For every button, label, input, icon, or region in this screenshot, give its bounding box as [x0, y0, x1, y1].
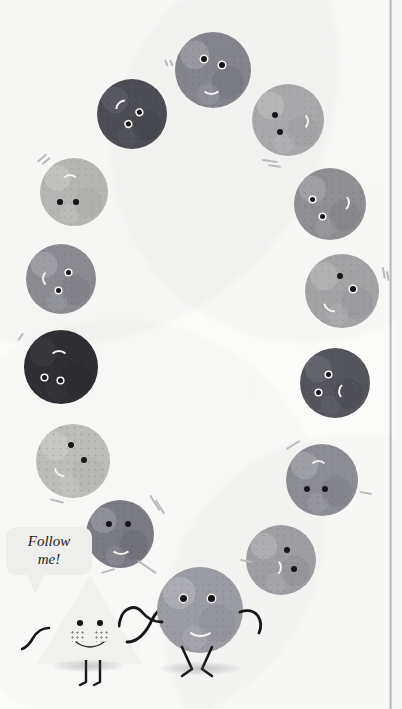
- mouth: [290, 112, 309, 131]
- pebble-face: [300, 348, 370, 418]
- pebble-face: [26, 244, 96, 314]
- motion-tick: [360, 491, 372, 495]
- follower-mouth: [186, 615, 215, 637]
- mouth: [337, 381, 358, 402]
- mouth: [49, 350, 69, 369]
- motion-tick: [164, 59, 168, 66]
- pebble-face: [85, 67, 178, 160]
- motion-tick: [169, 59, 173, 66]
- eye-right: [291, 566, 297, 572]
- eye-left: [310, 197, 315, 202]
- mouth: [42, 269, 61, 288]
- motion-tick: [262, 159, 278, 163]
- pebble-face: [305, 254, 379, 328]
- pebble-character-13: [246, 525, 316, 595]
- speech-bubble-text: Follow me!: [28, 533, 71, 568]
- mouth: [319, 289, 346, 316]
- pebble-character-7: [305, 254, 379, 328]
- triangle-shadow: [52, 660, 124, 672]
- eye-right: [277, 129, 283, 135]
- pebble-character-12: [86, 500, 154, 568]
- pebble-face: [86, 500, 154, 568]
- triangle-left-arm: [21, 624, 51, 658]
- pebble-character-8: [24, 330, 98, 404]
- mouth: [111, 96, 137, 122]
- follower-right-arm: [238, 602, 278, 638]
- eye-right: [219, 62, 225, 68]
- pebble-face: [24, 330, 98, 404]
- follower-shadow: [160, 662, 240, 675]
- eye-right: [316, 390, 321, 395]
- motion-tick: [268, 164, 281, 167]
- pebble-face: [246, 525, 316, 595]
- illustration-page: Follow me!: [0, 0, 402, 709]
- eye-right: [322, 486, 328, 492]
- eye-left: [42, 375, 47, 380]
- eye-right: [125, 521, 131, 527]
- motion-tick: [101, 568, 115, 573]
- eye-left: [66, 270, 71, 275]
- pebble-character-11: [286, 444, 358, 516]
- eye-right: [320, 214, 325, 219]
- eye-right: [81, 457, 87, 463]
- page-edge-highlight: [392, 0, 402, 709]
- pebble-face: [286, 444, 358, 516]
- mouth: [201, 76, 222, 95]
- pebble-face: [36, 424, 110, 498]
- pebble-character-6: [26, 244, 96, 314]
- pebble-face: [40, 158, 108, 226]
- pebble-character-3: [252, 84, 324, 156]
- eye-left: [57, 199, 63, 205]
- follower-face: [157, 567, 243, 653]
- pebble-face: [252, 84, 324, 156]
- eye-left: [304, 486, 310, 492]
- eye-right: [350, 286, 356, 292]
- motion-tick: [382, 267, 386, 279]
- mouth: [61, 174, 79, 192]
- eye-right: [56, 288, 61, 293]
- pebble-character-9: [300, 348, 370, 418]
- follower-eye-left: [180, 595, 187, 602]
- eye-right: [58, 378, 63, 383]
- eye-left: [337, 273, 343, 279]
- mouth: [263, 558, 283, 578]
- motion-tick: [50, 498, 64, 503]
- eye-left: [68, 442, 74, 448]
- speech-line-1: Follow: [28, 533, 71, 551]
- pebble-character-4: [40, 158, 108, 226]
- pebble-character-5: [294, 168, 366, 240]
- mouth: [330, 192, 351, 213]
- mouth: [110, 536, 132, 555]
- eye-left: [326, 372, 331, 377]
- pebble-character-1: [175, 32, 251, 108]
- triangle-mouth: [75, 640, 105, 652]
- pebble-face: [175, 32, 251, 108]
- eye-left: [272, 112, 278, 118]
- follower-eye-right: [208, 595, 215, 602]
- triangle-eye-left: [77, 620, 83, 626]
- pebble-character-2: [97, 79, 167, 149]
- speech-line-2: me!: [28, 551, 71, 569]
- pebble-character-10: [36, 424, 110, 498]
- follower-character: [157, 567, 243, 653]
- book-binding-edge: [389, 0, 392, 709]
- pebble-face: [294, 168, 366, 240]
- eye-left: [125, 121, 132, 128]
- mouth: [309, 460, 328, 478]
- eye-right: [73, 199, 79, 205]
- triangle-eye-right: [97, 620, 103, 626]
- follower-left-arm: [118, 604, 164, 638]
- speech-bubble: Follow me!: [6, 527, 92, 575]
- motion-tick: [17, 333, 23, 341]
- eye-left: [284, 547, 290, 553]
- eye-right: [136, 109, 143, 116]
- eye-left: [106, 521, 112, 527]
- mouth: [50, 454, 77, 481]
- eye-left: [201, 56, 207, 62]
